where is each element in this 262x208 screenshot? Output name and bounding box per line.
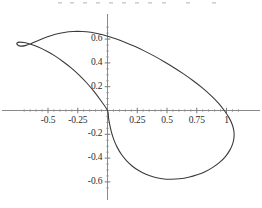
plot-figure: -0.5-0.250.250.50.751 0.60.40.2-0.2-0.4-… xyxy=(0,0,262,208)
x-tick-label: 0.75 xyxy=(189,116,205,126)
y-tick-label: -0.6 xyxy=(88,177,103,187)
x-tick-label: 0.5 xyxy=(161,116,173,126)
y-tick-label: -0.2 xyxy=(88,130,103,140)
y-tick-label: 0.2 xyxy=(91,82,103,92)
x-tick-label: 0.25 xyxy=(129,116,145,126)
x-tick-label: 1 xyxy=(224,116,229,126)
x-tick-label: -0.25 xyxy=(68,116,87,126)
plot-canvas xyxy=(0,0,262,208)
x-tick-label: -0.5 xyxy=(41,116,56,126)
y-tick-label: -0.4 xyxy=(88,153,103,163)
y-tick-label: 0.4 xyxy=(91,58,103,68)
parametric-loop-curve xyxy=(17,31,234,179)
y-tick-label: 0.6 xyxy=(91,34,103,44)
